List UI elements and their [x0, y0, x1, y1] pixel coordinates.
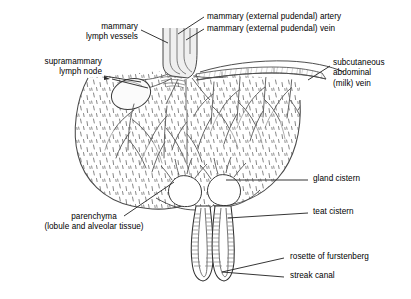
label-supramammary-lymph-node: supramammary lymph node	[0, 57, 102, 78]
label-streak-canal: streak canal	[290, 271, 400, 281]
diagram-canvas: mammary lymph vessels supramammary lymph…	[0, 0, 411, 299]
label-gland-cistern: gland cistern	[313, 174, 409, 184]
label-mammary-vein: mammary (external pudendal) vein	[207, 24, 407, 34]
label-parenchyma: parenchyma (lobule and alveolar tissue)	[16, 212, 172, 233]
teat-left	[191, 206, 214, 281]
label-rosette-of-furstenberg: rosette of furstenberg	[290, 252, 411, 262]
label-mammary-artery: mammary (external pudendal) artery	[207, 12, 407, 22]
label-subcutaneous-abdominal-vein: subcutaneous abdominal (milk) vein	[333, 58, 411, 89]
label-teat-cistern: teat cistern	[313, 207, 409, 217]
skin-band	[196, 61, 344, 80]
label-mammary-lymph-vessels: mammary lymph vessels	[34, 22, 138, 43]
leader-teat-cistern	[228, 213, 308, 218]
